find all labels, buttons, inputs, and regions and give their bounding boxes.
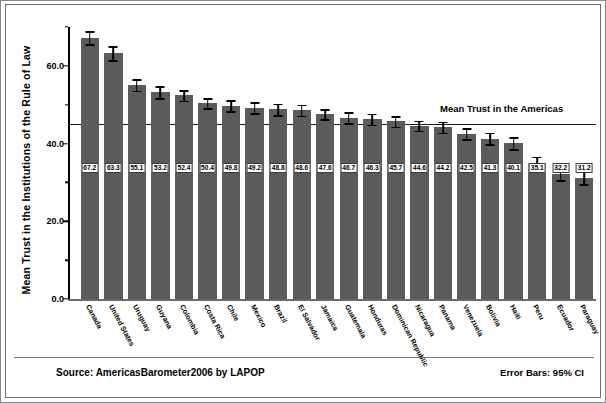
x-axis-label: Uruguay bbox=[131, 303, 153, 333]
error-bar bbox=[466, 128, 468, 139]
error-bar-cap-top bbox=[274, 104, 283, 106]
error-bar bbox=[89, 31, 91, 44]
chart-screenshot: Mean Trust in the Institutions of the Ru… bbox=[0, 0, 606, 403]
error-bar-cap-bottom bbox=[156, 98, 165, 100]
bar-value-label: 55.1 bbox=[128, 163, 145, 173]
error-bar-cap-top bbox=[227, 100, 236, 102]
bar-value-label: 53.2 bbox=[152, 163, 169, 173]
bar-value-label: 41.3 bbox=[482, 163, 499, 173]
source-note: Source: AmericasBarometer2006 by LAPOP bbox=[56, 367, 265, 378]
bar-value-label: 46.7 bbox=[340, 163, 357, 173]
error-bar-cap-bottom bbox=[250, 113, 259, 115]
error-bar-cap-top bbox=[297, 105, 306, 107]
bar[interactable]: 44.6 bbox=[410, 126, 428, 299]
bar-slot: 48.8Brazil bbox=[266, 27, 290, 299]
bar[interactable]: 41.3 bbox=[481, 139, 499, 299]
bar-slot: 53.2Guyana bbox=[149, 27, 173, 299]
bar[interactable]: 46.3 bbox=[363, 119, 381, 299]
bar[interactable]: 31.2 bbox=[575, 178, 593, 299]
bar-slot: 55.1Uruguay bbox=[125, 27, 149, 299]
x-axis-label: Chile bbox=[225, 303, 241, 323]
error-bar-cap-bottom bbox=[368, 125, 377, 127]
error-bar bbox=[513, 137, 515, 149]
bar-value-label: 46.3 bbox=[364, 163, 381, 173]
error-bar bbox=[160, 86, 162, 98]
bar-slot: 41.3Bolivia bbox=[478, 27, 502, 299]
plot-area: 0.020.040.060.0 Mean Trust in the Americ… bbox=[68, 27, 596, 299]
y-tick-label: 60.0 bbox=[46, 61, 64, 71]
y-tick-label: 40.0 bbox=[46, 139, 64, 149]
x-axis-label: Brazil bbox=[272, 303, 289, 325]
y-tick-label: 0.0 bbox=[51, 294, 64, 304]
bar[interactable]: 42.5 bbox=[457, 134, 475, 299]
bar-slot: 47.6Jamaica bbox=[313, 27, 337, 299]
bar[interactable]: 49.2 bbox=[245, 108, 263, 299]
error-bar-cap-bottom bbox=[438, 133, 447, 135]
bar[interactable]: 47.6 bbox=[316, 114, 334, 299]
bar-value-label: 35.1 bbox=[529, 163, 546, 173]
bar-slot: 44.6Nicaragua bbox=[408, 27, 432, 299]
x-axis-label: El Salvador bbox=[296, 303, 322, 342]
error-bar-cap-top bbox=[109, 46, 118, 48]
bar[interactable]: 45.7 bbox=[387, 121, 405, 299]
bar-value-label: 40.1 bbox=[505, 163, 522, 173]
x-axis-label: Ecuador bbox=[555, 303, 576, 333]
x-axis-label: Honduras bbox=[366, 303, 390, 337]
error-bar-cap-bottom bbox=[321, 119, 330, 121]
error-bar bbox=[113, 46, 115, 60]
bar-value-label: 49.8 bbox=[223, 163, 240, 173]
x-axis-label: Mexico bbox=[249, 303, 268, 329]
bar[interactable]: 55.1 bbox=[128, 85, 146, 299]
bar[interactable]: 48.8 bbox=[269, 109, 287, 299]
bar[interactable]: 63.3 bbox=[104, 53, 122, 299]
y-tick-label: 20.0 bbox=[46, 216, 64, 226]
bar[interactable]: 32.2 bbox=[552, 174, 570, 299]
error-bar-cap-bottom bbox=[580, 184, 589, 186]
x-axis-line bbox=[68, 299, 596, 301]
bar[interactable]: 40.1 bbox=[504, 143, 522, 299]
bar-slot: 44.2Panama bbox=[431, 27, 455, 299]
error-bar bbox=[183, 90, 185, 101]
error-bar-cap-top bbox=[368, 114, 377, 116]
bar-value-label: 32.2 bbox=[552, 163, 569, 173]
error-bar bbox=[583, 172, 585, 184]
x-axis-label: Guyana bbox=[154, 303, 174, 331]
bar[interactable]: 52.4 bbox=[175, 95, 193, 299]
bar[interactable]: 49.8 bbox=[222, 106, 240, 300]
bar[interactable]: 35.1 bbox=[528, 163, 546, 299]
bar[interactable]: 53.2 bbox=[151, 92, 169, 299]
x-axis-label: Colombia bbox=[178, 303, 201, 336]
bar-slot: 63.3United States bbox=[102, 27, 126, 299]
bar[interactable]: 44.2 bbox=[434, 127, 452, 299]
x-axis-label: Jamaica bbox=[319, 303, 340, 332]
bar[interactable]: 48.6 bbox=[293, 110, 311, 299]
error-bar-cap-bottom bbox=[132, 91, 141, 93]
bar-slot: 49.2Mexico bbox=[243, 27, 267, 299]
error-bar bbox=[348, 112, 350, 123]
bar-slot: 52.4Colombia bbox=[172, 27, 196, 299]
error-bar-cap-bottom bbox=[344, 123, 353, 125]
error-bar-cap-top bbox=[462, 128, 471, 130]
error-bar bbox=[442, 122, 444, 133]
error-bar-cap-top bbox=[203, 98, 212, 100]
bar-value-label: 48.8 bbox=[270, 163, 287, 173]
error-bar bbox=[372, 114, 374, 125]
x-axis-label: Paraguay bbox=[578, 303, 601, 336]
bar-value-label: 52.4 bbox=[176, 163, 193, 173]
error-bar bbox=[254, 102, 256, 113]
error-bar-cap-top bbox=[250, 102, 259, 104]
error-bar-cap-top bbox=[391, 116, 400, 118]
chart-frame: Mean Trust in the Institutions of the Ru… bbox=[5, 4, 601, 398]
error-bar-note: Error Bars: 95% CI bbox=[500, 367, 584, 378]
error-bar-cap-bottom bbox=[227, 111, 236, 113]
error-bar-cap-bottom bbox=[415, 131, 424, 133]
error-bar-cap-top bbox=[179, 90, 188, 92]
footer-divider bbox=[14, 357, 594, 358]
bar[interactable]: 50.4 bbox=[198, 103, 216, 299]
bar[interactable]: 67.2 bbox=[81, 38, 99, 299]
bar-value-label: 45.7 bbox=[387, 163, 404, 173]
x-axis-label: Panama bbox=[437, 303, 458, 332]
error-bar-cap-top bbox=[509, 137, 518, 139]
bar-value-label: 47.6 bbox=[317, 163, 334, 173]
bar[interactable]: 46.7 bbox=[340, 118, 358, 299]
